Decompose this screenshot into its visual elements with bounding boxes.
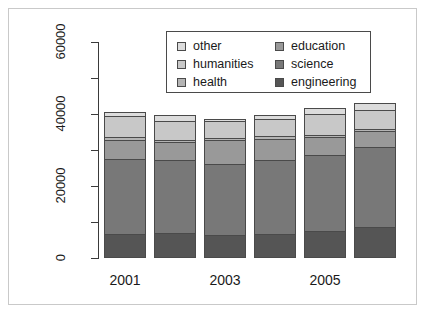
legend-item-other[interactable]: other (177, 38, 253, 55)
bar-segment-engineering[interactable] (204, 235, 246, 258)
y-axis-tick-label: 40000 (53, 88, 68, 140)
bar-segment-engineering[interactable] (154, 233, 196, 258)
y-axis-tick (91, 222, 98, 223)
plot-area: 0200004000060000 200120032005 otherhuman… (0, 0, 433, 319)
bar-segment-humanities[interactable] (204, 121, 246, 139)
bar-segment-humanities[interactable] (154, 121, 196, 141)
bar-segment-science[interactable] (354, 147, 396, 228)
bar-segment-engineering[interactable] (254, 234, 296, 258)
bar-2006[interactable] (354, 103, 396, 258)
legend-swatch-icon (275, 42, 284, 51)
legend-swatch-icon (177, 42, 186, 51)
bar-segment-science[interactable] (204, 164, 246, 237)
legend-column-left: otherhumanitieshealth (177, 38, 253, 92)
legend-item-label: health (193, 76, 227, 89)
legend-swatch-icon (177, 60, 186, 69)
bar-segment-humanities[interactable] (104, 116, 146, 138)
bar-segment-education[interactable] (354, 131, 396, 148)
legend-column-right: educationscienceengineering (275, 38, 356, 92)
legend-item-label: humanities (193, 58, 253, 71)
legend: otherhumanitieshealth educationscienceen… (166, 31, 371, 93)
y-axis-tick-label: 60000 (53, 16, 68, 68)
bar-2005[interactable] (304, 108, 346, 258)
bar-2003[interactable] (204, 119, 246, 258)
legend-item-label: science (291, 58, 333, 71)
y-axis-tick (91, 258, 98, 259)
legend-item-label: other (193, 40, 222, 53)
y-axis-tick (91, 150, 98, 151)
y-axis-tick (91, 42, 98, 43)
legend-item-engineering[interactable]: engineering (275, 74, 356, 91)
chart-canvas: 0200004000060000 200120032005 otherhuman… (0, 0, 433, 319)
y-axis-tick-label: 0 (53, 232, 68, 284)
bar-2002[interactable] (154, 115, 196, 258)
y-axis-tick (91, 78, 98, 79)
bar-segment-science[interactable] (154, 160, 196, 234)
x-axis-tick-label: 2005 (295, 272, 355, 288)
bar-segment-education[interactable] (204, 140, 246, 165)
bar-2001[interactable] (104, 112, 146, 258)
bar-segment-humanities[interactable] (304, 114, 346, 136)
bar-segment-education[interactable] (254, 139, 296, 161)
legend-item-health[interactable]: health (177, 74, 253, 91)
bar-segment-humanities[interactable] (254, 119, 296, 137)
y-axis-tick-label: 20000 (53, 160, 68, 212)
bar-segment-engineering[interactable] (304, 231, 346, 258)
bar-segment-education[interactable] (154, 142, 196, 161)
y-axis-tick (91, 114, 98, 115)
y-axis-tick (91, 186, 98, 187)
bar-segment-science[interactable] (254, 160, 296, 235)
legend-item-science[interactable]: science (275, 56, 356, 73)
legend-item-education[interactable]: education (275, 38, 356, 55)
bar-segment-engineering[interactable] (104, 234, 146, 258)
legend-swatch-icon (275, 78, 284, 87)
legend-item-label: education (291, 40, 345, 53)
legend-swatch-icon (177, 78, 186, 87)
bar-segment-education[interactable] (304, 137, 346, 155)
x-axis-tick-label: 2001 (95, 272, 155, 288)
bar-2004[interactable] (254, 115, 296, 258)
x-axis-tick-label: 2003 (195, 272, 255, 288)
bar-segment-engineering[interactable] (354, 227, 396, 258)
bar-segment-humanities[interactable] (354, 110, 396, 129)
legend-item-humanities[interactable]: humanities (177, 56, 253, 73)
bar-segment-science[interactable] (304, 155, 346, 232)
legend-swatch-icon (275, 60, 284, 69)
bar-segment-science[interactable] (104, 159, 146, 235)
y-axis-line (98, 42, 99, 259)
legend-item-label: engineering (291, 76, 356, 89)
bar-segment-education[interactable] (104, 140, 146, 160)
